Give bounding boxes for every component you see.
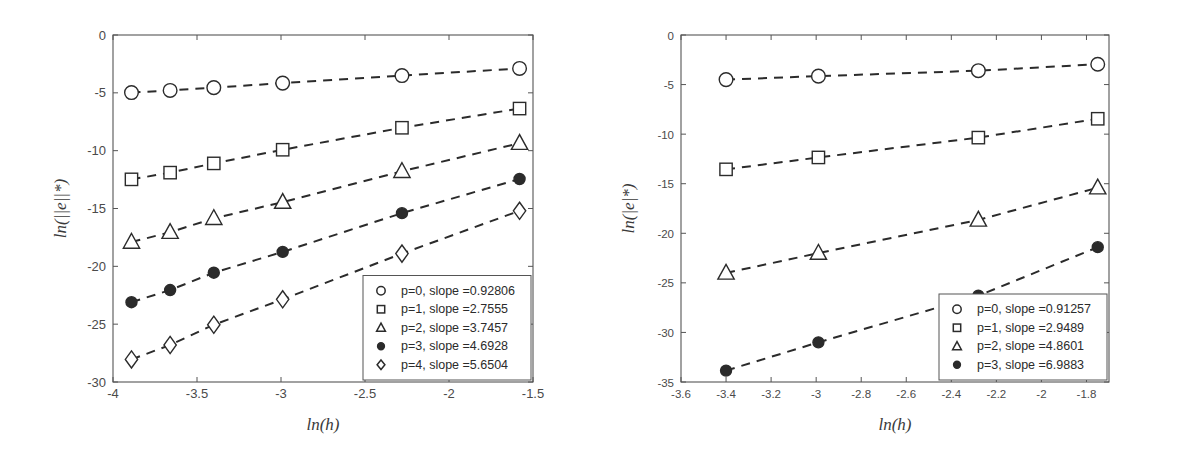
legend-entry-label: p=1, slope =2.7555	[401, 302, 508, 316]
x-axis-label: ln(h)	[306, 415, 339, 434]
legend-marker-circle-open-icon	[377, 287, 385, 295]
x-tick-label: -3	[275, 386, 287, 401]
data-point-marker	[396, 208, 407, 219]
legend-marker-square-open-icon	[953, 324, 960, 331]
y-tick-label: -25	[657, 277, 674, 289]
data-point-marker	[206, 210, 222, 225]
data-point-marker	[513, 202, 525, 219]
x-tick-label: -2.8	[851, 388, 871, 400]
data-point-marker	[125, 173, 137, 185]
data-point-marker	[164, 336, 176, 353]
series-0	[125, 62, 527, 100]
legend-entry-label: p=2, slope =4.8601	[977, 339, 1084, 353]
y-axis-label: ln(|e|*)	[619, 183, 638, 233]
data-point-marker	[277, 291, 289, 308]
data-point-marker	[720, 163, 732, 175]
plot-area-left: -4-3.5-3-2.5-2-1.5-30-25-20-15-10-50ln(h…	[51, 28, 544, 435]
y-tick-label: -5	[664, 79, 674, 91]
y-axis-label: ln(||e||*)	[51, 179, 70, 239]
data-point-marker	[1092, 113, 1104, 125]
data-point-marker	[721, 365, 732, 376]
y-tick-label: -35	[657, 377, 674, 389]
x-tick-label: -2.2	[986, 388, 1006, 400]
x-tick-label: -1.8	[1077, 388, 1097, 400]
x-tick-label: -2	[443, 386, 455, 401]
x-tick-label: -1.5	[522, 386, 544, 401]
y-tick-label: 0	[668, 30, 674, 42]
y-tick-label: -10	[657, 129, 674, 141]
legend-entry-label: p=0, slope =0.92806	[401, 284, 515, 298]
data-point-marker	[208, 157, 220, 169]
plot-area-right: -3.6-3.4-3.2-3-2.8-2.6-2.4-2.2-2-1.8-35-…	[619, 30, 1109, 435]
y-tick-label: -30	[657, 327, 674, 339]
y-tick-label: -5	[94, 85, 106, 100]
data-point-marker	[163, 84, 177, 98]
y-tick-label: 0	[99, 28, 106, 43]
x-tick-label: -3.4	[716, 388, 736, 400]
chart-panel-left: -4-3.5-3-2.5-2-1.5-30-25-20-15-10-50ln(h…	[0, 0, 590, 449]
data-point-marker	[162, 224, 178, 239]
x-tick-label: -3	[811, 388, 821, 400]
series-line	[726, 188, 1098, 273]
x-axis-label: ln(h)	[878, 415, 911, 434]
y-tick-label: -10	[87, 143, 106, 158]
y-tick-label: -15	[87, 201, 106, 216]
y-tick-label: -20	[657, 228, 674, 240]
x-tick-label: -3.2	[761, 388, 781, 400]
data-point-marker	[126, 297, 137, 308]
data-point-marker	[396, 245, 408, 262]
legend-marker-circle-filled-icon	[378, 343, 385, 350]
data-point-marker	[972, 131, 984, 143]
data-point-marker	[812, 69, 826, 83]
x-tick-label: -3.5	[186, 386, 208, 401]
x-tick-label: -2.5	[354, 386, 376, 401]
series-line	[131, 68, 519, 92]
data-point-marker	[277, 144, 289, 156]
legend-marker-circle-open-icon	[953, 305, 961, 313]
x-tick-label: -2	[1036, 388, 1046, 400]
legend-entry-label: p=0, slope =0.91257	[977, 302, 1091, 316]
legend-entry-label: p=1, slope =2.9489	[977, 321, 1084, 335]
legend-entry-label: p=3, slope =6.9883	[977, 358, 1084, 372]
series-line	[726, 119, 1098, 170]
y-tick-label: -15	[657, 178, 674, 190]
x-tick-label: -2.4	[941, 388, 961, 400]
data-point-marker	[208, 267, 219, 278]
legend-right: p=0, slope =0.91257p=1, slope =2.9489p=2…	[939, 294, 1107, 380]
y-tick-label: -25	[87, 317, 106, 332]
data-point-marker	[276, 76, 290, 90]
series-0	[719, 57, 1104, 86]
data-point-marker	[1090, 179, 1106, 194]
data-point-marker	[125, 351, 137, 368]
data-point-marker	[513, 62, 527, 76]
series-line	[131, 109, 519, 180]
data-point-marker	[513, 102, 525, 114]
x-tick-label: -2.6	[896, 388, 916, 400]
x-tick-label: -3.6	[671, 388, 691, 400]
data-point-marker	[1091, 57, 1105, 71]
data-point-marker	[514, 174, 525, 185]
x-tick-label: -4	[107, 386, 119, 401]
series-1	[125, 102, 525, 185]
series-line	[726, 64, 1098, 79]
chart-right-canvas: -3.6-3.4-3.2-3-2.8-2.6-2.4-2.2-2-1.8-35-…	[590, 0, 1180, 449]
data-point-marker	[165, 285, 176, 296]
data-point-marker	[277, 246, 288, 257]
series-1	[720, 113, 1104, 176]
chart-left-canvas: -4-3.5-3-2.5-2-1.5-30-25-20-15-10-50ln(h…	[0, 0, 590, 449]
legend-left: p=0, slope =0.92806p=1, slope =2.7555p=2…	[363, 276, 531, 381]
y-tick-label: -30	[87, 375, 106, 390]
y-tick-label: -20	[87, 259, 106, 274]
data-point-marker	[1092, 242, 1103, 253]
data-point-marker	[395, 69, 409, 83]
data-point-marker	[208, 316, 220, 333]
data-point-marker	[164, 166, 176, 178]
data-point-marker	[511, 135, 527, 150]
series-line	[131, 143, 519, 242]
data-point-marker	[207, 81, 221, 95]
legend-entry-label: p=4, slope =5.6504	[401, 358, 508, 372]
legend-entry-label: p=3, slope =4.6928	[401, 339, 508, 353]
series-2	[123, 135, 527, 249]
series-2	[718, 179, 1106, 279]
chart-panel-right: -3.6-3.4-3.2-3-2.8-2.6-2.4-2.2-2-1.8-35-…	[590, 0, 1180, 449]
